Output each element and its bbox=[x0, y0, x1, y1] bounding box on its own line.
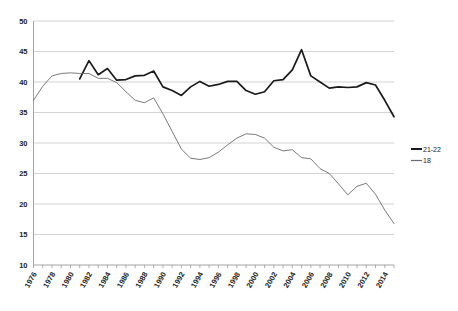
x-axis-tick-label: 2008 bbox=[318, 271, 334, 290]
x-axis-tick-label: 1996 bbox=[207, 271, 223, 290]
x-axis-tick-label: 2012 bbox=[355, 271, 371, 290]
y-axis-tick-labels: 101520253035404550 bbox=[19, 17, 27, 270]
x-axis-tick-label: 1976 bbox=[23, 271, 39, 290]
line-chart: 101520253035404550 197619781980198219841… bbox=[0, 0, 458, 311]
x-axis-tick-label: 1978 bbox=[41, 271, 57, 290]
y-axis-tick-label: 30 bbox=[19, 139, 27, 148]
y-axis-tick-label: 15 bbox=[19, 230, 27, 239]
series-line-21-22 bbox=[80, 50, 394, 117]
x-axis-tick-label: 2014 bbox=[374, 270, 391, 290]
x-axis-tick-label: 1990 bbox=[152, 271, 168, 290]
y-axis-tick-label: 40 bbox=[19, 78, 27, 87]
legend-label: 18 bbox=[423, 157, 431, 164]
gridlines bbox=[34, 21, 395, 265]
x-axis-tick-label: 1986 bbox=[115, 271, 131, 290]
x-axis-tick-label: 2010 bbox=[337, 271, 353, 290]
x-axis-tick-label: 2004 bbox=[281, 270, 298, 290]
x-axis-tick-label: 1982 bbox=[78, 271, 94, 290]
x-axis-tick-label: 1992 bbox=[170, 271, 186, 290]
y-axis-tick-label: 35 bbox=[19, 108, 27, 117]
y-axis-tick-label: 20 bbox=[19, 200, 27, 209]
x-axis-tick-marks bbox=[34, 265, 395, 268]
x-axis-tick-label: 2002 bbox=[263, 271, 279, 290]
x-axis-tick-label: 1980 bbox=[60, 271, 76, 290]
legend-label: 21-22 bbox=[423, 146, 441, 153]
x-axis-tick-label: 2006 bbox=[300, 271, 316, 290]
y-axis-tick-label: 45 bbox=[19, 47, 27, 56]
chart-legend: 21-2218 bbox=[411, 146, 441, 165]
x-axis-tick-label: 1988 bbox=[134, 271, 150, 290]
y-axis-tick-label: 10 bbox=[19, 261, 27, 270]
x-axis-tick-labels: 1976197819801982198419861988199019921994… bbox=[23, 270, 391, 290]
chart-canvas: 101520253035404550 197619781980198219841… bbox=[0, 0, 458, 311]
y-axis-tick-label: 25 bbox=[19, 169, 27, 178]
y-axis-tick-label: 50 bbox=[19, 17, 27, 26]
data-series bbox=[34, 50, 395, 224]
x-axis-tick-label: 2000 bbox=[244, 271, 260, 290]
x-axis-tick-label: 1998 bbox=[226, 271, 242, 290]
x-axis-tick-label: 1994 bbox=[189, 270, 206, 290]
series-line-18 bbox=[34, 73, 395, 224]
x-axis-tick-label: 1984 bbox=[97, 270, 114, 290]
